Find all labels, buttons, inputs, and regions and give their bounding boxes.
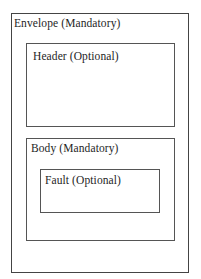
header-label: Header (Optional) [33, 50, 119, 62]
header-box: Header (Optional) [26, 43, 175, 127]
body-label: Body (Mandatory) [31, 142, 119, 154]
envelope-label: Envelope (Mandatory) [14, 17, 120, 29]
fault-label: Fault (Optional) [45, 174, 121, 186]
fault-box: Fault (Optional) [40, 169, 160, 213]
